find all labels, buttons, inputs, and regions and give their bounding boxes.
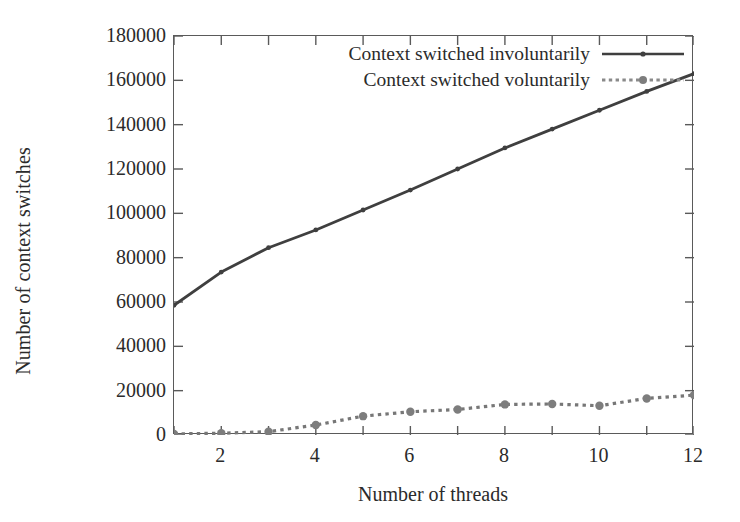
legend-label: Context switched voluntarily	[364, 69, 590, 91]
legend-label: Context switched involuntarily	[348, 43, 590, 65]
legend-key-voluntary	[600, 70, 686, 90]
legend-key-involuntary	[600, 44, 686, 64]
chart-legend: Context switched involuntarily Context s…	[334, 35, 686, 93]
x-tick-label: 4	[310, 444, 320, 467]
x-tick-label: 2	[215, 444, 225, 467]
chart-figure: Number of context switches 0200004000060…	[0, 0, 740, 522]
x-tick-label: 12	[683, 444, 703, 467]
x-tick-label: 10	[588, 444, 608, 467]
legend-item: Context switched involuntarily	[334, 41, 686, 67]
x-axis-title: Number of threads	[173, 483, 693, 506]
legend-item: Context switched voluntarily	[334, 67, 686, 93]
x-tick-label: 8	[499, 444, 509, 467]
x-tick-label: 6	[404, 444, 414, 467]
